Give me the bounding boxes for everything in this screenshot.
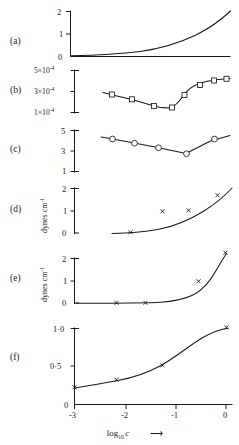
panel-d-ticklabel-2: 2 (62, 184, 66, 194)
panel-c-ticklabel-1: 1 (62, 166, 66, 176)
panel-d-markers (129, 193, 220, 234)
panel-f-letter: (f) (10, 352, 20, 363)
panel-a-letter: (a) (10, 36, 21, 47)
panel-e-markers (115, 251, 228, 305)
panel-f-ticklabel-0: 0 (64, 400, 68, 410)
panel-d-ticklabel-1: 1 (63, 206, 67, 216)
panel-d-letter: (d) (10, 204, 21, 215)
x-axis-arrow: ⟶ (150, 428, 163, 438)
panel-e-letter: (e) (10, 273, 21, 284)
panel-a: (a) 2 1 0 (10, 7, 231, 62)
panel-f-ticklabel-10: 1·0 (53, 324, 64, 334)
x-axis: -3 -2 -1 0 log10c ⟶ (69, 405, 232, 440)
x-ticklabel--1: -1 (171, 410, 178, 420)
panel-d-ylabel: dynes cm-1 (39, 198, 49, 233)
panel-e-ticklabel-0: 0 (62, 298, 66, 308)
panel-b: (b) 5×10-4 3×10-4 1×10-4 (10, 65, 230, 117)
panel-d-ticklabel-0: 0 (62, 228, 66, 238)
panel-d: (d) dynes cm-1 2 1 0 (10, 184, 232, 238)
figure-panel-stack: (a) 2 1 0 (b) 5×10-4 3×10-4 1×10-4 (0, 0, 239, 445)
panel-b-ticklabel-1e-4: 1×10-4 (34, 107, 55, 117)
panel-e-ticklabel-1: 1 (63, 276, 67, 286)
panel-b-ticklabel-3e-4: 3×10-4 (34, 86, 55, 96)
panel-c-ticklabel-3: 3 (61, 146, 65, 156)
panel-b-ticklabel-5e-4: 5×10-4 (34, 65, 55, 75)
panel-a-curve (71, 11, 231, 56)
panel-f-markers (73, 325, 229, 389)
panel-c-letter: (c) (10, 144, 21, 155)
panel-d-curve (112, 188, 232, 234)
x-ticklabel--2: -2 (121, 410, 128, 420)
panel-c-curve (101, 136, 230, 154)
x-ticklabel--3: -3 (69, 410, 76, 420)
x-axis-label: log10c (107, 428, 130, 440)
panel-c: (c) 5 3 1 (10, 126, 230, 176)
multi-panel-plot: (a) 2 1 0 (b) 5×10-4 3×10-4 1×10-4 (0, 0, 239, 445)
panel-f-curve (75, 328, 228, 388)
panel-a-ticklabel-0: 0 (58, 52, 62, 62)
panel-a-ticklabel-1: 1 (59, 29, 63, 39)
panel-e-ticklabel-2: 2 (62, 254, 66, 264)
x-ticklabel-0: 0 (223, 410, 227, 420)
panel-a-ticklabel-2: 2 (57, 7, 61, 17)
panel-b-curve (103, 79, 230, 108)
panel-e-curve (76, 254, 227, 304)
panel-c-ticklabel-5: 5 (61, 126, 65, 136)
panel-b-letter: (b) (10, 85, 21, 96)
panel-f-ticklabel-05: 0·5 (50, 361, 61, 371)
panel-b-markers (110, 76, 230, 110)
panel-c-markers (110, 136, 218, 157)
panel-e-ylabel: dynes cm-1 (39, 267, 49, 302)
panel-f: (f) 1·0 0·5 0 (10, 324, 229, 410)
panel-e: (e) dynes cm-1 2 1 0 (10, 251, 228, 308)
